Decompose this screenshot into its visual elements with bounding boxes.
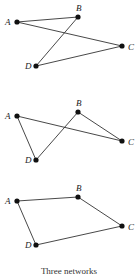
node-label-B: B bbox=[76, 183, 82, 193]
node-B bbox=[75, 14, 80, 19]
network-diagrams: ABCDABCDABCD bbox=[0, 0, 138, 276]
node-label-D: D bbox=[24, 61, 32, 71]
network-2: ABCD bbox=[4, 98, 135, 165]
node-A bbox=[14, 198, 19, 203]
edge-DA bbox=[17, 201, 36, 245]
node-label-A: A bbox=[4, 111, 11, 121]
network-1: ABCD bbox=[4, 3, 135, 71]
edge-CD bbox=[36, 226, 122, 245]
node-label-D: D bbox=[24, 240, 32, 250]
node-B bbox=[75, 194, 80, 199]
node-B bbox=[75, 109, 80, 114]
node-D bbox=[33, 63, 38, 68]
network-3: ABCD bbox=[4, 183, 135, 250]
node-D bbox=[33, 242, 38, 247]
edge-AB bbox=[17, 197, 78, 201]
figure-caption: Three networks bbox=[0, 266, 138, 276]
edge-BC bbox=[78, 112, 122, 141]
edge-AC bbox=[17, 22, 122, 46]
node-label-C: C bbox=[128, 42, 135, 52]
edge-AD bbox=[17, 116, 36, 160]
node-label-B: B bbox=[76, 98, 82, 108]
node-label-C: C bbox=[128, 137, 135, 147]
edge-AB bbox=[17, 17, 78, 22]
node-label-A: A bbox=[4, 196, 11, 206]
node-A bbox=[14, 113, 19, 118]
edge-BC bbox=[78, 197, 122, 226]
node-label-B: B bbox=[76, 3, 82, 13]
node-label-A: A bbox=[4, 17, 11, 27]
edge-DC bbox=[36, 46, 122, 66]
node-C bbox=[119, 223, 124, 228]
edge-AC bbox=[17, 116, 122, 141]
node-C bbox=[119, 43, 124, 48]
node-A bbox=[14, 19, 19, 24]
node-label-C: C bbox=[128, 222, 135, 232]
node-D bbox=[33, 157, 38, 162]
edge-DB bbox=[36, 112, 78, 160]
edge-BD bbox=[36, 17, 78, 66]
node-label-D: D bbox=[24, 155, 32, 165]
node-C bbox=[119, 138, 124, 143]
